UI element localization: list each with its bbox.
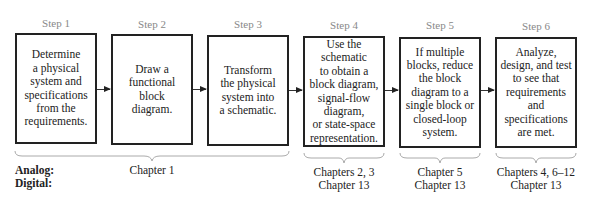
step-5-box: If multiple blocks, reduce the block dia… (399, 37, 481, 148)
arrow-right-icon (289, 90, 302, 91)
arrow-right-icon (385, 90, 398, 91)
step-2-label: Step 2 (111, 18, 193, 30)
chapter-step-5: Chapter 5 Chapter 13 (392, 166, 488, 193)
step-4-label: Step 4 (303, 19, 385, 31)
chapter-step-6: Chapters 4, 6–12 Chapter 13 (486, 166, 586, 193)
step-4-box: Use the schematic to obtain a block diag… (303, 36, 385, 147)
step-3-box: Transform the physical system into a sch… (207, 35, 289, 146)
step-1-box: Determine a physical system and specific… (15, 33, 97, 144)
step-5-label: Step 5 (399, 19, 481, 31)
step-1-text: Determine a physical system and specific… (22, 48, 89, 128)
digital-label: Digital: (15, 177, 52, 189)
brace-step-4 (303, 152, 385, 164)
step-3-label: Step 3 (207, 18, 289, 30)
step-3-text: Transform the physical system into a sch… (218, 64, 279, 118)
brace-steps-1-3 (14, 150, 290, 162)
chapter-step-4: Chapters 2, 3 Chapter 13 (296, 166, 392, 193)
arrow-right-icon (97, 89, 110, 90)
step-1-label: Step 1 (15, 17, 97, 29)
step-5-text: If multiple blocks, reduce the block dia… (404, 46, 476, 140)
step-6-text: Analyze, design, and test to see that re… (498, 46, 573, 140)
step-6-label: Step 6 (495, 20, 577, 32)
brace-step-6 (495, 152, 577, 164)
step-6-box: Analyze, design, and test to see that re… (495, 37, 577, 148)
arrow-right-icon (193, 89, 206, 90)
analog-label: Analog: (15, 164, 54, 176)
step-2-box: Draw a functional block diagram. (111, 34, 193, 145)
step-4-text: Use the schematic to obtain a block diag… (308, 38, 381, 145)
step-2-text: Draw a functional block diagram. (127, 63, 178, 117)
chapter-steps-1-3: Chapter 1 (110, 164, 194, 177)
brace-step-5 (399, 152, 481, 164)
arrow-right-icon (481, 90, 494, 91)
